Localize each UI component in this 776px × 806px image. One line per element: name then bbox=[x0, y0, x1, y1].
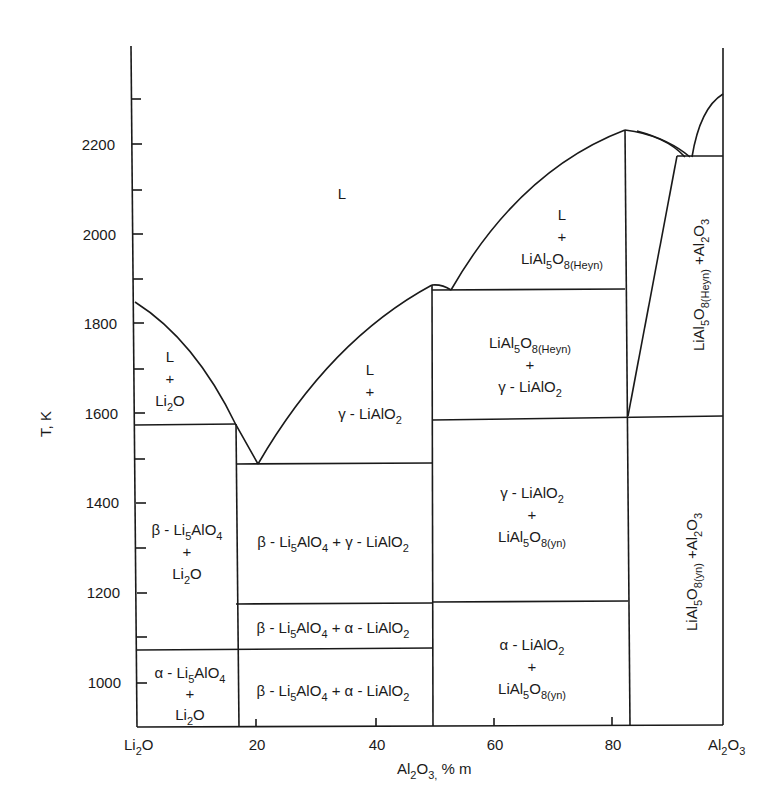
phase-diagram: 2200 2000 1800 1600 1400 1200 1000 T, K … bbox=[0, 0, 776, 806]
svg-text:+: + bbox=[186, 685, 195, 702]
y-tick-labels: 2200 2000 1800 1600 1400 1200 1000 bbox=[82, 136, 121, 691]
svg-text:+: + bbox=[526, 356, 535, 373]
svg-text:α - Li5AlO4: α - Li5AlO4 bbox=[155, 664, 226, 685]
x-right-endpoint-label: Al2O3 bbox=[708, 736, 745, 757]
svg-text:40: 40 bbox=[369, 736, 386, 753]
svg-text:Li2O: Li2O bbox=[175, 706, 204, 727]
svg-text:Li2O: Li2O bbox=[172, 565, 201, 586]
svg-text:L: L bbox=[166, 348, 174, 365]
svg-text:1200: 1200 bbox=[87, 584, 120, 601]
lialo2-liquidus-left bbox=[258, 285, 432, 464]
x-axis-title: Al2O3, % m bbox=[397, 760, 472, 781]
svg-text:LiAl5O8(Heyn): LiAl5O8(Heyn) bbox=[489, 334, 571, 355]
svg-text:1600: 1600 bbox=[85, 405, 118, 422]
svg-text:1000: 1000 bbox=[88, 674, 121, 691]
svg-text:1800: 1800 bbox=[84, 315, 117, 332]
lial5o8-liquidus-right bbox=[625, 130, 685, 157]
svg-text:+: + bbox=[166, 370, 175, 387]
y-axis-line bbox=[131, 46, 137, 727]
svg-text:α - LiAlO2: α - LiAlO2 bbox=[500, 636, 565, 657]
svg-text:β - Li5AlO4 + γ - LiAlO2: β - Li5AlO4 + γ - LiAlO2 bbox=[257, 533, 409, 554]
svg-text:β - Li5AlO4: β - Li5AlO4 bbox=[152, 521, 223, 542]
svg-text:+: + bbox=[528, 506, 537, 523]
svg-text:Li2O: Li2O bbox=[155, 392, 184, 413]
label-liquid: L bbox=[338, 185, 346, 202]
svg-text:+: + bbox=[528, 658, 537, 675]
svg-text:1400: 1400 bbox=[86, 494, 119, 511]
svg-text:LiAl5O8(Heyn): LiAl5O8(Heyn) bbox=[521, 250, 603, 271]
y-axis-title: T, K bbox=[37, 411, 54, 437]
svg-text:+: + bbox=[183, 543, 192, 560]
svg-text:L: L bbox=[558, 206, 566, 223]
li2o-liquidus bbox=[135, 302, 258, 464]
svg-text:LiAl5O8(yn): LiAl5O8(yn) bbox=[498, 528, 566, 549]
phase-boundaries bbox=[135, 94, 723, 727]
svg-text:2000: 2000 bbox=[83, 226, 116, 243]
svg-text:L: L bbox=[366, 361, 374, 378]
svg-text:LiAl5O8(Heyn) +Al2O3: LiAl5O8(Heyn) +Al2O3 bbox=[690, 219, 711, 351]
svg-text:80: 80 bbox=[605, 736, 622, 753]
svg-text:γ - LiAlO2: γ - LiAlO2 bbox=[498, 378, 562, 399]
svg-text:LiAl5O8(yn) +Al2O3: LiAl5O8(yn) +Al2O3 bbox=[683, 513, 704, 631]
svg-text:β - Li5AlO4 + α - LiAlO2: β - Li5AlO4 + α - LiAlO2 bbox=[257, 682, 410, 703]
al2o3-liquidus bbox=[692, 94, 723, 157]
svg-text:LiAl5O8(yn): LiAl5O8(yn) bbox=[498, 680, 566, 701]
svg-text:β - Li5AlO4 + α - LiAlO2: β - Li5AlO4 + α - LiAlO2 bbox=[257, 619, 410, 640]
svg-text:γ - LiAlO2: γ - LiAlO2 bbox=[338, 405, 402, 426]
svg-text:γ - LiAlO2: γ - LiAlO2 bbox=[500, 484, 564, 505]
x-left-endpoint-label: Li2O bbox=[124, 736, 153, 757]
svg-text:2200: 2200 bbox=[82, 136, 115, 153]
svg-text:+: + bbox=[366, 383, 375, 400]
svg-text:60: 60 bbox=[487, 736, 504, 753]
x-tick-labels: 20 40 60 80 bbox=[249, 736, 622, 753]
svg-text:20: 20 bbox=[249, 736, 266, 753]
x-axis-line bbox=[137, 725, 723, 727]
svg-text:+: + bbox=[558, 228, 567, 245]
